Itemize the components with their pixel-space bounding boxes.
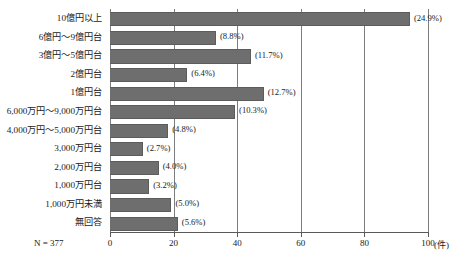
- bar-8: [110, 161, 159, 175]
- bar-3: [110, 68, 187, 82]
- x-tick-100: [428, 232, 429, 237]
- x-tick-label-20: 20: [169, 238, 178, 248]
- bar-4: [110, 87, 264, 101]
- bar-1: [110, 31, 216, 45]
- bar-percent-label-4: (12.7%): [268, 85, 296, 100]
- x-tick-60: [301, 232, 302, 237]
- x-tick-20: [174, 232, 175, 237]
- category-label-4: 1億円台: [70, 83, 102, 102]
- x-axis-unit-label: (件): [434, 238, 449, 251]
- bar-row: (4.8%): [110, 121, 428, 140]
- bar-2: [110, 49, 251, 63]
- bar-row: (5.6%): [110, 213, 428, 232]
- bar-0: [110, 12, 410, 26]
- x-tick-label-40: 40: [233, 238, 242, 248]
- bar-10: [110, 198, 171, 212]
- bar-percent-label-8: (4.0%): [163, 159, 187, 174]
- plot-area: (24.9%)(8.8%)(11.7%)(6.4%)(12.7%)(10.3%)…: [110, 9, 428, 232]
- bar-percent-label-11: (5.6%): [182, 215, 206, 230]
- bar-5: [110, 105, 235, 119]
- category-label-3: 2億円台: [70, 65, 102, 84]
- bar-row: (2.7%): [110, 139, 428, 158]
- bar-row: (4.0%): [110, 158, 428, 177]
- category-label-10: 1,000万円未満: [45, 195, 102, 214]
- bar-percent-label-0: (24.9%): [414, 11, 442, 26]
- bar-row: (8.8%): [110, 28, 428, 47]
- x-axis-line: [110, 232, 429, 233]
- category-label-7: 3,000万円台: [54, 139, 102, 158]
- category-label-11: 無回答: [75, 213, 102, 232]
- bar-percent-label-10: (5.0%): [175, 196, 199, 211]
- bar-percent-label-7: (2.7%): [147, 141, 171, 156]
- bar-11: [110, 217, 178, 231]
- bar-7: [110, 142, 143, 156]
- bar-row: (5.0%): [110, 195, 428, 214]
- bar-row: (3.2%): [110, 176, 428, 195]
- bar-row: (11.7%): [110, 46, 428, 65]
- category-label-5: 6,000万円～9,000万円台: [7, 102, 102, 121]
- bar-row: (12.7%): [110, 83, 428, 102]
- x-tick-label-0: 0: [108, 238, 113, 248]
- category-label-8: 2,000万円台: [54, 158, 102, 177]
- x-tick-40: [237, 232, 238, 237]
- bar-percent-label-1: (8.8%): [220, 29, 244, 44]
- x-tick-label-60: 60: [296, 238, 305, 248]
- category-label-2: 3億円～5億円台: [39, 46, 102, 65]
- category-label-9: 1,000万円台: [54, 176, 102, 195]
- bar-percent-label-9: (3.2%): [153, 178, 177, 193]
- x-axis-tick-labels: 020406080100(件): [0, 238, 466, 252]
- bar-row: (10.3%): [110, 102, 428, 121]
- x-tick-label-100: 100: [421, 238, 435, 248]
- bar-6: [110, 124, 168, 138]
- x-tick-label-80: 80: [360, 238, 369, 248]
- x-tick-0: [110, 232, 111, 237]
- category-label-0: 10億円以上: [57, 9, 102, 28]
- bar-9: [110, 179, 149, 193]
- bar-percent-label-3: (6.4%): [191, 66, 215, 81]
- category-label-6: 4,000万円～5,000万円台: [7, 121, 102, 140]
- bar-row: (6.4%): [110, 65, 428, 84]
- bar-percent-label-2: (11.7%): [255, 48, 283, 63]
- horizontal-bar-chart: 10億円以上6億円～9億円台3億円～5億円台2億円台1億円台6,000万円～9,…: [0, 0, 466, 272]
- category-axis: 10億円以上6億円～9億円台3億円～5億円台2億円台1億円台6,000万円～9,…: [0, 9, 106, 232]
- bar-percent-label-5: (10.3%): [239, 103, 267, 118]
- category-label-1: 6億円～9億円台: [39, 28, 102, 47]
- x-tick-80: [364, 232, 365, 237]
- gridline-100: [428, 9, 429, 232]
- sample-size-note: N = 377: [34, 238, 64, 248]
- bar-percent-label-6: (4.8%): [172, 122, 196, 137]
- bar-row: (24.9%): [110, 9, 428, 28]
